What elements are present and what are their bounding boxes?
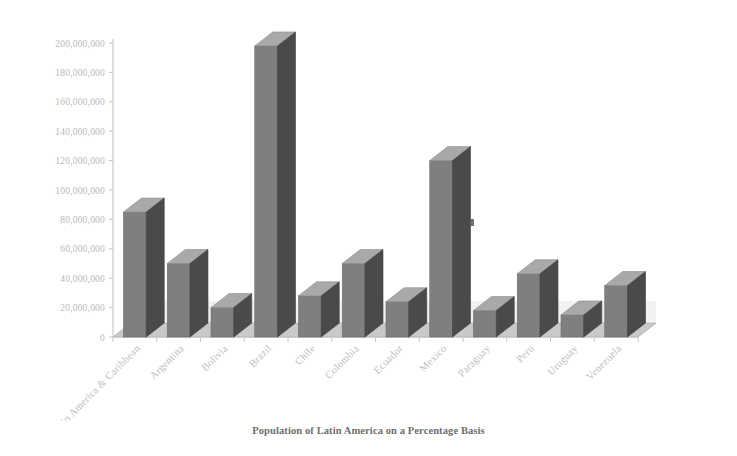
y-axis-tick-label: 160,000,000: [55, 97, 105, 107]
bar-latin-america-caribbean[interactable]: [124, 198, 165, 337]
y-axis-tick-label: 120,000,000: [55, 156, 105, 166]
plot-area: 200,000,000180,000,000160,000,000140,000…: [0, 0, 737, 420]
bar-chart-svg: 200,000,000180,000,000160,000,000140,000…: [0, 0, 737, 420]
y-axis-tick-label: 80,000,000: [60, 215, 105, 225]
y-axis-tick-label: 0: [100, 333, 105, 343]
bar-mexico[interactable]: [430, 147, 471, 337]
x-axis-category-label: Paraguay: [456, 342, 493, 379]
chart-caption: Population of Latin America on a Percent…: [0, 425, 737, 436]
y-axis-tick-label: 140,000,000: [55, 127, 105, 137]
bar-front-face[interactable]: [124, 212, 147, 337]
bar-front-face[interactable]: [517, 274, 540, 337]
x-axis-category-label: Brazil: [247, 343, 274, 370]
bar-front-face[interactable]: [561, 315, 584, 337]
y-axis-tick-label: 60,000,000: [60, 244, 105, 254]
x-axis-category-label: Mexico: [417, 343, 448, 374]
bar-front-face[interactable]: [342, 264, 365, 338]
bar-front-face[interactable]: [299, 296, 322, 337]
bar-front-face[interactable]: [430, 161, 453, 337]
y-axis-tick-label: 20,000,000: [60, 303, 105, 313]
bar-venezuela[interactable]: [605, 272, 646, 337]
bar-side-face: [146, 198, 164, 337]
x-axis-category-label: Bolivia: [199, 343, 230, 374]
x-axis-category-label: Colombia: [323, 343, 361, 381]
bar-side-face: [190, 250, 208, 338]
bar-front-face[interactable]: [211, 308, 234, 337]
bar-side-face: [278, 32, 296, 337]
bar-argentina[interactable]: [167, 250, 208, 338]
x-axis-category-label: Peru: [514, 342, 536, 364]
y-axis-tick-label: 100,000,000: [55, 186, 105, 196]
bar-front-face[interactable]: [255, 46, 278, 337]
y-axis-tick-label: 40,000,000: [60, 274, 105, 284]
bar-front-face[interactable]: [386, 302, 409, 337]
y-axis-tick-label: 200,000,000: [55, 39, 105, 49]
bar-peru[interactable]: [517, 260, 558, 337]
bar-side-face: [453, 147, 471, 337]
x-axis-category-label: Latin America & Caribbean: [48, 342, 142, 420]
x-axis-category-label: Chile: [293, 343, 318, 368]
x-axis-category-label: Ecuador: [371, 342, 405, 376]
bar-front-face[interactable]: [605, 286, 628, 337]
chart-figure: 200,000,000180,000,000160,000,000140,000…: [0, 0, 737, 456]
bar-front-face[interactable]: [167, 264, 190, 338]
bar-front-face[interactable]: [474, 311, 497, 337]
bar-side-face: [540, 260, 558, 337]
scan-artifact-speck: [470, 219, 474, 226]
bar-side-face: [365, 250, 383, 338]
x-axis-category-label: Venezuela: [584, 343, 624, 383]
x-axis-category-label: Uruguay: [545, 342, 580, 377]
bar-brazil[interactable]: [255, 32, 296, 337]
x-axis-category-label: Argentina: [147, 343, 186, 382]
y-axis-tick-label: 180,000,000: [55, 68, 105, 78]
bar-colombia[interactable]: [342, 250, 383, 338]
